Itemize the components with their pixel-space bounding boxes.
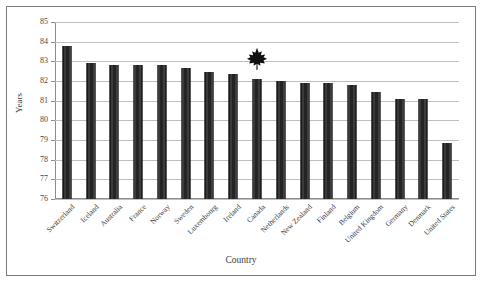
bar-slot bbox=[150, 22, 174, 199]
bar-slot bbox=[388, 22, 412, 199]
bar[interactable] bbox=[205, 72, 214, 199]
chart-frame: Years 85848382818079787776 SwitzerlandIc… bbox=[6, 6, 476, 276]
y-tick-label: 76 bbox=[40, 195, 48, 203]
plot-area: 85848382818079787776 bbox=[55, 22, 459, 199]
bar-slot bbox=[245, 22, 269, 199]
bar[interactable] bbox=[181, 68, 190, 199]
x-tick-label: France bbox=[128, 203, 148, 223]
y-tick-label: 79 bbox=[40, 136, 48, 144]
bar-slot bbox=[103, 22, 127, 199]
bar-slot bbox=[435, 22, 459, 199]
y-tick-label: 82 bbox=[40, 77, 48, 85]
x-tick-label: Switzerland bbox=[45, 203, 76, 234]
bar[interactable] bbox=[62, 46, 71, 199]
bar-slot bbox=[126, 22, 150, 199]
bar[interactable] bbox=[276, 81, 285, 199]
bar-slot bbox=[364, 22, 388, 199]
y-tick-label: 83 bbox=[40, 57, 48, 65]
bar-slot bbox=[55, 22, 79, 199]
bar[interactable] bbox=[252, 79, 261, 199]
y-tick-label: 77 bbox=[40, 175, 48, 183]
x-tick-label: Norway bbox=[149, 203, 172, 226]
y-axis-title: Years bbox=[14, 93, 24, 113]
bar[interactable] bbox=[157, 65, 166, 199]
bar-slot bbox=[174, 22, 198, 199]
gridline bbox=[55, 199, 459, 200]
x-axis-labels: SwitzerlandIcelandAustraliaFranceNorwayS… bbox=[55, 201, 459, 263]
x-axis-title: Country bbox=[7, 255, 475, 265]
bar[interactable] bbox=[110, 65, 119, 199]
x-tick-label: Australia bbox=[99, 203, 124, 228]
bar[interactable] bbox=[443, 143, 452, 199]
bar-slot bbox=[411, 22, 435, 199]
bar-slot bbox=[340, 22, 364, 199]
x-tick-label: Germany bbox=[384, 203, 409, 228]
bar[interactable] bbox=[300, 83, 309, 199]
bar[interactable] bbox=[348, 85, 357, 199]
bar[interactable] bbox=[324, 83, 333, 199]
bar-slot bbox=[79, 22, 103, 199]
bar-series bbox=[55, 22, 459, 199]
x-tick-label: Canada bbox=[245, 203, 267, 225]
y-tick-mark bbox=[51, 199, 55, 200]
y-tick-label: 81 bbox=[40, 97, 48, 105]
y-tick-label: 84 bbox=[40, 38, 48, 46]
bar-slot bbox=[269, 22, 293, 199]
bar-slot bbox=[198, 22, 222, 199]
y-tick-label: 78 bbox=[40, 156, 48, 164]
bar-slot bbox=[316, 22, 340, 199]
x-tick-label: Finland bbox=[316, 203, 338, 225]
bar[interactable] bbox=[86, 63, 95, 199]
y-tick-label: 85 bbox=[40, 18, 48, 26]
bar[interactable] bbox=[371, 92, 380, 199]
y-tick-label: 80 bbox=[40, 116, 48, 124]
x-tick-label: Ireland bbox=[222, 203, 243, 224]
bar-slot bbox=[293, 22, 317, 199]
bar[interactable] bbox=[229, 74, 238, 199]
bar-slot bbox=[221, 22, 245, 199]
bar[interactable] bbox=[134, 65, 143, 199]
bar[interactable] bbox=[395, 99, 404, 199]
bar[interactable] bbox=[419, 99, 428, 199]
